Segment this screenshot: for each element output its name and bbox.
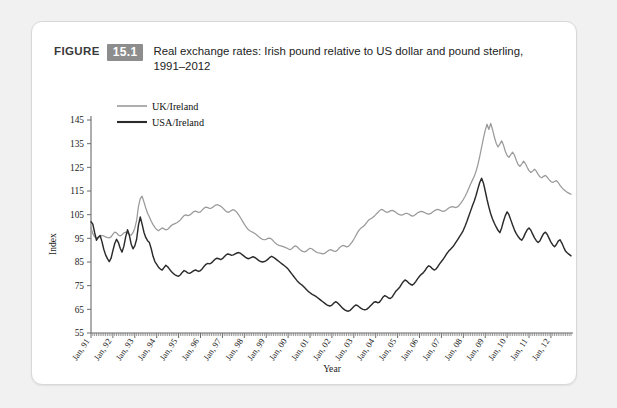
y-axis-tick-label: 125: [70, 163, 84, 173]
y-axis-tick-label: 85: [75, 257, 85, 267]
y-axis-tick-label: 105: [70, 210, 84, 220]
x-axis-tick-label: Jan, 96: [179, 336, 201, 362]
chart-plot-area: 1451351251151059585756555 Jan, 91Jan, 92…: [32, 84, 578, 384]
x-axis-tick-label: Jan, 06: [398, 336, 420, 362]
chart-legend: UK/IrelandUSA/Ireland: [117, 101, 204, 128]
x-axis-tick-label: Jan, 04: [354, 336, 376, 362]
y-axis-tick-label: 115: [70, 186, 84, 196]
legend-label-usa-ireland: USA/Ireland: [152, 117, 204, 128]
x-axis-tick-label: Jan, 00: [267, 337, 289, 363]
x-axis-tick-label: Jan, 94: [135, 336, 157, 362]
y-axis-title: Index: [47, 233, 58, 255]
figure-number-badge: 15.1: [107, 44, 144, 61]
x-axis-tick-label: Jan, 11: [508, 337, 530, 363]
figure-card: FIGURE 15.1 Real exchange rates: Irish p…: [31, 21, 577, 385]
x-axis-tick-label: Jan, 97: [201, 336, 223, 362]
legend-label-uk-ireland: UK/Ireland: [152, 101, 198, 112]
y-axis-tick-label: 75: [75, 281, 85, 291]
series-line-usa-ireland: [91, 178, 571, 311]
x-axis-tick-label: Jan, 98: [223, 337, 245, 363]
x-axis-tick-label: Jan, 12: [530, 337, 552, 363]
y-axis-tick-label: 145: [70, 115, 84, 125]
y-axis-tick-label: 65: [75, 305, 85, 315]
figure-title-text: Real exchange rates: Irish pound relativ…: [153, 44, 543, 74]
y-axis: 1451351251151059585756555: [70, 115, 91, 338]
y-axis-tick-label: 135: [70, 139, 84, 149]
x-axis-tick-label: Jan, 05: [376, 337, 398, 363]
chart-series: [91, 123, 571, 311]
x-axis-tick-label: Jan, 03: [333, 337, 355, 363]
x-axis-tick-label: Jan, 91: [70, 337, 92, 363]
x-axis-tick-label: Jan, 01: [289, 337, 311, 363]
x-axis-tick-label: Jan, 07: [420, 336, 442, 362]
x-axis-tick-label: Jan, 10: [486, 337, 508, 363]
x-axis-tick-label: Jan, 08: [442, 337, 464, 363]
x-axis-tick-label: Jan, 02: [311, 337, 333, 363]
x-axis-title: Year: [323, 363, 341, 374]
x-axis-tick-label: Jan, 95: [157, 337, 179, 363]
y-axis-tick-label: 95: [75, 234, 85, 244]
x-axis: Jan, 91Jan, 92Jan, 93Jan, 94Jan, 95Jan, …: [70, 333, 573, 362]
line-chart: 1451351251151059585756555 Jan, 91Jan, 92…: [32, 84, 578, 384]
figure-label: FIGURE: [54, 44, 100, 57]
x-axis-tick-label: Jan, 93: [114, 337, 136, 363]
x-axis-tick-label: Jan, 99: [245, 337, 267, 363]
series-line-uk-ireland: [91, 123, 571, 254]
figure-caption: FIGURE 15.1 Real exchange rates: Irish p…: [54, 44, 559, 74]
x-axis-tick-label: Jan, 09: [464, 337, 486, 363]
x-axis-tick-label: Jan, 92: [92, 337, 114, 363]
